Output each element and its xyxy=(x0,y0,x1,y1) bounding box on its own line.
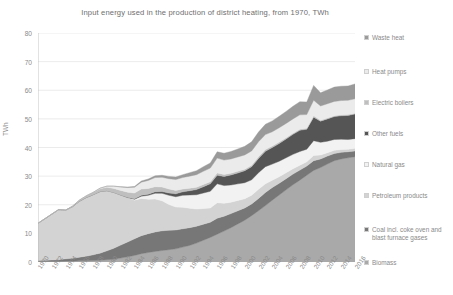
legend-swatch-icon xyxy=(364,131,369,136)
y-axis-tick-label: 10 xyxy=(25,230,32,237)
legend-item-label: Waste heat xyxy=(372,34,404,42)
legend-swatch-icon xyxy=(364,69,369,74)
chart-title: Input energy used in the production of d… xyxy=(55,8,355,17)
x-axis-tick-label: 1980 xyxy=(105,266,111,270)
legend-item-label: Biomass xyxy=(372,259,397,267)
legend-item-label: Natural gas xyxy=(372,161,405,169)
y-axis-tick-label: 60 xyxy=(25,87,32,94)
legend-swatch-icon xyxy=(364,162,369,167)
x-axis-tick-label: 1972 xyxy=(50,266,56,270)
x-axis-tick-label: 2016 xyxy=(353,266,359,270)
legend-item[interactable]: Other fuels xyxy=(364,130,403,138)
y-axis-tick-label: 0 xyxy=(28,259,32,266)
x-axis-tick-label: 2004 xyxy=(270,266,276,270)
legend-swatch-icon xyxy=(364,227,369,232)
legend-item[interactable]: Waste heat xyxy=(364,34,404,42)
x-axis-tick-label: 1992 xyxy=(188,266,194,270)
x-axis-tick-label: 1994 xyxy=(201,266,207,270)
stacked-area-chart: Input energy used in the production of d… xyxy=(0,0,453,295)
legend-item[interactable]: Petroleum products xyxy=(364,192,427,200)
x-axis-tick-label: 1984 xyxy=(132,266,138,270)
x-axis-tick-label: 2008 xyxy=(298,266,304,270)
x-axis-tick-labels: 1970197219741976197819801982198419861988… xyxy=(38,262,355,295)
x-axis-tick-label: 1974 xyxy=(64,266,70,270)
legend-item[interactable]: Electric boilers xyxy=(364,99,414,107)
legend-item-label: Coal incl. coke oven and blast furnace g… xyxy=(372,226,450,243)
x-axis-tick-label: 1976 xyxy=(77,266,83,270)
x-axis-tick-label: 2006 xyxy=(284,266,290,270)
legend-swatch-icon xyxy=(364,35,369,40)
x-axis-tick-label: 1990 xyxy=(174,266,180,270)
x-axis-tick-label: 1988 xyxy=(160,266,166,270)
y-axis-tick-label: 20 xyxy=(25,201,32,208)
legend-item-label: Petroleum products xyxy=(372,192,427,200)
legend-item-label: Other fuels xyxy=(372,130,403,138)
legend-item[interactable]: Biomass xyxy=(364,259,397,267)
x-axis-tick-label: 2010 xyxy=(312,266,318,270)
legend-item[interactable]: Natural gas xyxy=(364,161,405,169)
legend-item[interactable]: Heat pumps xyxy=(364,68,406,76)
y-axis-tick-label: 30 xyxy=(25,173,32,180)
y-axis-tick-label: 50 xyxy=(25,115,32,122)
x-axis-tick-label: 1998 xyxy=(229,266,235,270)
plot-area xyxy=(38,33,355,262)
y-axis-tick-label: 40 xyxy=(25,144,32,151)
legend-swatch-icon xyxy=(364,193,369,198)
x-axis-tick-label: 1986 xyxy=(146,266,152,270)
x-axis-tick-label: 2002 xyxy=(257,266,263,270)
y-axis-tick-labels: 01020304050607080 xyxy=(0,33,36,262)
x-axis-tick-label: 1996 xyxy=(215,266,221,270)
plot-svg xyxy=(38,33,355,262)
x-axis-tick-label: 2012 xyxy=(325,266,331,270)
legend-item[interactable]: Coal incl. coke oven and blast furnace g… xyxy=(364,226,450,243)
x-axis-tick-label: 1978 xyxy=(91,266,97,270)
legend-swatch-icon xyxy=(364,260,369,265)
x-axis-tick-label: 1970 xyxy=(36,266,42,270)
legend-item-label: Heat pumps xyxy=(372,68,406,76)
x-axis-tick-label: 2000 xyxy=(243,266,249,270)
legend-item-label: Electric boilers xyxy=(372,99,414,107)
y-axis-tick-label: 70 xyxy=(25,58,32,65)
y-axis-tick-label: 80 xyxy=(25,30,32,37)
x-axis-tick-label: 2014 xyxy=(339,266,345,270)
legend-swatch-icon xyxy=(364,100,369,105)
x-axis-tick-label: 1982 xyxy=(119,266,125,270)
